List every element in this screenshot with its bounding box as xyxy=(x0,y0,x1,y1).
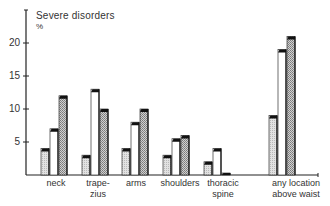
bar-body xyxy=(213,149,221,175)
bar xyxy=(41,149,49,175)
bar xyxy=(213,149,221,175)
bar xyxy=(100,109,108,175)
bar xyxy=(269,116,277,175)
y-tick-10: 10 xyxy=(0,103,20,114)
y-tick-5: 5 xyxy=(0,136,20,147)
y-tick-20: 20 xyxy=(0,37,20,48)
bar xyxy=(131,122,139,175)
bar-body xyxy=(172,139,180,175)
x-label-thoracic-spine: thoracic spine xyxy=(198,178,248,200)
bar xyxy=(278,50,286,175)
bar-body xyxy=(287,36,295,175)
x-label-trapezius: trape- zius xyxy=(80,178,116,200)
bar xyxy=(122,149,130,175)
bar xyxy=(287,36,295,175)
bar xyxy=(172,139,180,175)
chart-title: Severe disorders xyxy=(36,10,115,21)
x-label-arms: arms xyxy=(118,178,154,189)
bar-body xyxy=(100,109,108,175)
bar xyxy=(50,129,58,175)
bar xyxy=(140,109,148,175)
bar-body xyxy=(41,149,49,175)
bar-body xyxy=(122,149,130,175)
bar-body xyxy=(131,122,139,175)
x-label-any-location: any location above waist xyxy=(262,178,330,200)
bar xyxy=(204,162,212,175)
bar-body xyxy=(181,135,189,175)
bar xyxy=(181,135,189,175)
bar xyxy=(82,155,90,175)
bar-chart xyxy=(0,0,330,206)
bar-body xyxy=(59,96,67,175)
bar-body xyxy=(140,109,148,175)
bars xyxy=(41,36,295,175)
bar-body xyxy=(269,116,277,175)
y-axis-unit: % xyxy=(36,22,43,31)
bar xyxy=(163,155,171,175)
bar-body xyxy=(278,50,286,175)
bar-body xyxy=(91,89,99,175)
y-tick-15: 15 xyxy=(0,70,20,81)
bar-body xyxy=(50,129,58,175)
x-label-neck: neck xyxy=(36,178,76,189)
bar xyxy=(59,96,67,175)
bar xyxy=(91,89,99,175)
bar xyxy=(222,173,230,175)
